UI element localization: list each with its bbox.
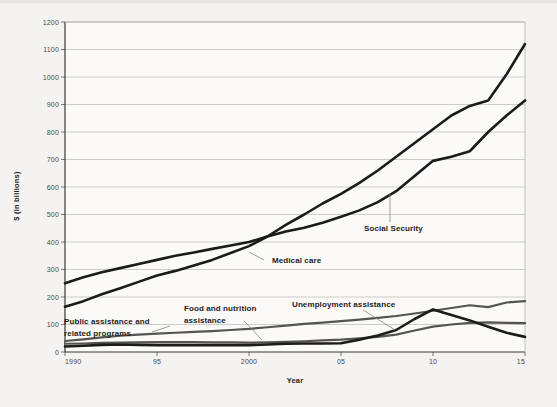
x-tick-label: 05 xyxy=(337,358,345,365)
y-tick-label: 1000 xyxy=(43,74,59,81)
x-axis-tick-labels: 1990952000051015 xyxy=(65,358,525,365)
y-tick-label: 900 xyxy=(47,101,59,108)
line-chart-figure: 0100200300400500600700800900100011001200… xyxy=(0,0,557,407)
y-tick-label: 600 xyxy=(47,184,59,191)
y-tick-label: 200 xyxy=(47,294,59,301)
series-annotation-unemployment-assistance: Unemployment assistance xyxy=(292,300,396,309)
x-tick-label: 15 xyxy=(517,358,525,365)
x-tick-label: 10 xyxy=(429,358,437,365)
x-tick-label: 2000 xyxy=(241,358,257,365)
y-tick-label: 400 xyxy=(47,239,59,246)
y-tick-label: 1100 xyxy=(43,46,59,53)
y-axis-tick-labels: 0100200300400500600700800900100011001200 xyxy=(43,19,59,356)
x-tick-label: 95 xyxy=(153,358,161,365)
y-tick-label: 800 xyxy=(47,129,59,136)
y-tick-label: 1200 xyxy=(43,19,59,26)
y-tick-label: 500 xyxy=(47,211,59,218)
x-axis-title: Year xyxy=(287,376,304,385)
series-annotation-medical-care: Medical care xyxy=(272,256,322,265)
x-tick-label: 1990 xyxy=(65,358,81,365)
y-tick-label: 100 xyxy=(47,321,59,328)
chart-page: 0100200300400500600700800900100011001200… xyxy=(0,0,557,407)
series-annotation-social-security: Social Security xyxy=(364,224,423,233)
y-tick-label: 700 xyxy=(47,156,59,163)
y-tick-label: 0 xyxy=(55,349,59,356)
y-axis-title: $ (in billions) xyxy=(12,171,21,221)
y-tick-label: 300 xyxy=(47,266,59,273)
